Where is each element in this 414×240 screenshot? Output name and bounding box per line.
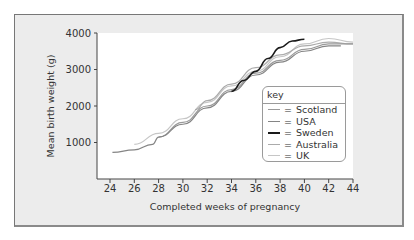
legend-label: UK — [296, 150, 309, 161]
x-tick-label: 40 — [298, 183, 311, 194]
x-axis-ticks: 2426283032343638404244 — [104, 179, 360, 194]
legend: key = Scotland = USA = Sweden = Australi… — [262, 86, 346, 162]
y-tick-label: 2000 — [66, 101, 91, 112]
legend-label: Sweden — [296, 127, 334, 138]
y-tick-label: 4000 — [66, 28, 91, 39]
x-tick-label: 38 — [274, 183, 287, 194]
legend-item-sweden: = Sweden — [263, 127, 345, 139]
legend-label: USA — [296, 116, 316, 127]
legend-item-usa: = USA — [263, 116, 345, 128]
legend-item-scotland: = Scotland — [263, 104, 345, 116]
x-tick-label: 30 — [177, 183, 190, 194]
legend-swatch-usa — [268, 121, 280, 122]
legend-swatch-scotland — [268, 109, 280, 110]
legend-label: Australia — [296, 139, 338, 150]
x-tick-label: 44 — [347, 183, 360, 194]
legend-item-uk: = UK — [263, 150, 345, 162]
line-chart: 1000200030004000 2426283032343638404244 … — [0, 0, 414, 240]
x-tick-label: 34 — [225, 183, 238, 194]
legend-item-australia: = Australia — [263, 139, 345, 151]
y-axis-ticks: 1000200030004000 — [66, 28, 97, 149]
y-tick-label: 1000 — [66, 137, 91, 148]
y-axis-title: Mean birth weight (g) — [45, 55, 56, 158]
x-tick-label: 36 — [249, 183, 262, 194]
x-tick-label: 42 — [322, 183, 335, 194]
x-tick-label: 28 — [152, 183, 165, 194]
legend-swatch-sweden — [268, 132, 280, 134]
legend-swatch-uk — [268, 155, 280, 156]
y-tick-label: 3000 — [66, 64, 91, 75]
x-axis-title: Completed weeks of pregnancy — [150, 201, 301, 212]
x-tick-label: 26 — [128, 183, 141, 194]
x-tick-label: 32 — [201, 183, 214, 194]
legend-title: key — [263, 87, 345, 104]
legend-label: Scotland — [296, 104, 337, 115]
x-tick-label: 24 — [104, 183, 117, 194]
legend-swatch-australia — [268, 144, 280, 145]
